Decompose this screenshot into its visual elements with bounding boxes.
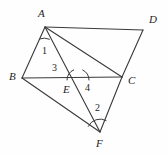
- vertex-label-A: A: [38, 8, 45, 19]
- angle-label-1: 1: [42, 46, 47, 56]
- geometry-canvas: [0, 0, 168, 154]
- segment-BC: [22, 77, 122, 78]
- segment-CF: [100, 77, 122, 132]
- vertex-label-B: B: [9, 71, 16, 82]
- angle-arc-1: [40, 38, 50, 39]
- geometry-figure: A D B C E F 1 3 4 2: [0, 0, 168, 154]
- segment-CD: [122, 30, 143, 77]
- angle-label-3: 3: [52, 63, 57, 73]
- vertex-label-F: F: [96, 138, 103, 149]
- vertex-label-C: C: [128, 75, 135, 86]
- angle-label-4: 4: [85, 83, 90, 93]
- segment-AF: [45, 27, 100, 132]
- segment-AD: [45, 27, 143, 30]
- angle-arc-4: [83, 70, 89, 80]
- angle-label-2: 2: [95, 103, 100, 113]
- vertex-label-D: D: [149, 14, 157, 25]
- vertex-label-E: E: [63, 84, 70, 95]
